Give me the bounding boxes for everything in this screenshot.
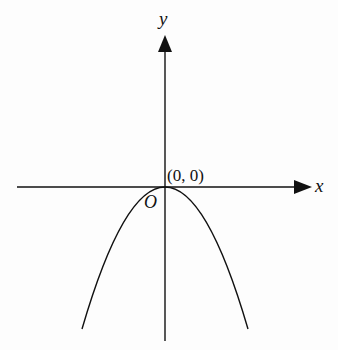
y-axis-arrow-icon bbox=[158, 35, 172, 52]
origin-label: O bbox=[144, 192, 157, 212]
graph-canvas: y x O (0, 0) bbox=[0, 0, 338, 350]
vertex-label: (0, 0) bbox=[167, 166, 204, 185]
x-axis-label: x bbox=[314, 175, 324, 196]
coordinate-plane: y x O (0, 0) bbox=[0, 0, 338, 350]
x-axis-arrow-icon bbox=[294, 180, 312, 194]
y-axis-label: y bbox=[157, 8, 168, 29]
